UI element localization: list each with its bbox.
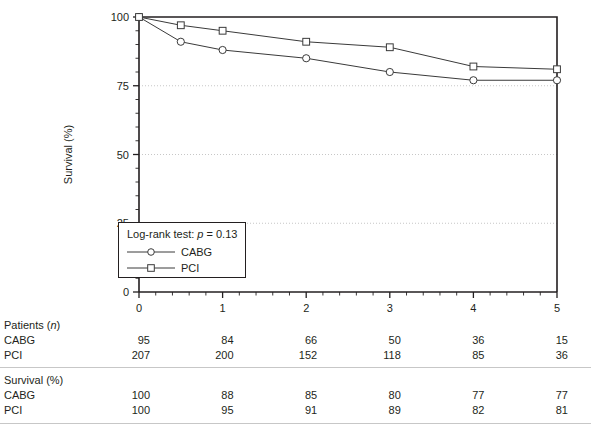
table-divider-bottom (0, 423, 591, 424)
row-label-cabg: CABG (4, 388, 35, 403)
patients-heading-suffix: ) (57, 319, 61, 331)
data-point-square-pci (303, 38, 310, 45)
data-point-square-pci (219, 27, 226, 34)
data-point-square-pci (177, 22, 184, 29)
x-tick-label: 3 (387, 302, 393, 314)
series-line-cabg (139, 17, 557, 80)
circle-open-icon (127, 246, 175, 258)
cell: 77 (528, 388, 568, 403)
patients-table: Patients (n) CABG 95 84 66 50 36 15 PCI … (0, 318, 591, 363)
data-point-circle-cabg (470, 77, 477, 84)
y-tick-label: 50 (117, 149, 129, 161)
table-row: CABG 95 84 66 50 36 15 (0, 333, 591, 348)
cell: 207 (110, 348, 150, 363)
data-point-circle-cabg (303, 55, 310, 62)
x-tick-label: 4 (470, 302, 476, 314)
y-axis-title: Survival (%) (62, 125, 74, 184)
data-series (135, 13, 560, 83)
data-tables: Patients (n) CABG 95 84 66 50 36 15 PCI … (0, 318, 591, 424)
cell: 88 (194, 388, 234, 403)
legend-entry-cabg: CABG (127, 245, 212, 259)
cell: 95 (110, 333, 150, 348)
data-point-square-pci (470, 63, 477, 70)
table-row: CABG 100 88 85 80 77 77 (0, 388, 591, 403)
cell: 100 (110, 403, 150, 418)
cell: 200 (194, 348, 234, 363)
data-point-square-pci (136, 14, 143, 21)
data-point-circle-cabg (386, 68, 393, 75)
table-row: PCI 207 200 152 118 85 36 (0, 348, 591, 363)
y-tick-label: 100 (111, 11, 129, 23)
x-tick-label: 0 (136, 302, 142, 314)
x-tick-label: 1 (220, 302, 226, 314)
y-tick-label: 75 (117, 80, 129, 92)
row-label-pci: PCI (4, 403, 22, 418)
chart-canvas: 1007550250 012345 Survival (%) Years pos… (0, 0, 591, 320)
cell: 15 (528, 333, 568, 348)
cell: 85 (444, 348, 484, 363)
cell: 85 (277, 388, 317, 403)
table-row: PCI 100 95 91 89 82 81 (0, 403, 591, 418)
cell: 152 (277, 348, 317, 363)
survival-table-heading: Survival (%) (0, 373, 591, 388)
cell: 50 (361, 333, 401, 348)
y-tick-label: 0 (123, 286, 129, 298)
row-label-pci: PCI (4, 348, 22, 363)
cell: 89 (361, 403, 401, 418)
cell: 80 (361, 388, 401, 403)
table-divider (0, 367, 591, 368)
legend-label-cabg: CABG (181, 246, 212, 258)
chart-legend: Log-rank test: p = 0.13 CABG (118, 222, 246, 278)
cell: 100 (110, 388, 150, 403)
cell: 91 (277, 403, 317, 418)
legend-entry-pci: PCI (127, 261, 199, 275)
cell: 118 (361, 348, 401, 363)
square-open-icon (127, 262, 175, 274)
log-rank-test-annotation: Log-rank test: p = 0.13 (127, 228, 237, 240)
data-point-circle-cabg (177, 38, 184, 45)
patients-heading-prefix: Patients ( (4, 319, 50, 331)
patients-table-heading: Patients (n) (0, 318, 591, 333)
survival-table: Survival (%) CABG 100 88 85 80 77 77 PCI… (0, 373, 591, 418)
cell: 82 (444, 403, 484, 418)
x-axis-tick-labels: 012345 (136, 302, 560, 314)
row-label-cabg: CABG (4, 333, 35, 348)
data-point-square-pci (554, 66, 561, 73)
cell: 95 (194, 403, 234, 418)
survival-curve-chart: 1007550250 012345 Survival (%) Years pos… (0, 0, 591, 320)
legend-label-pci: PCI (181, 262, 199, 274)
gridlines (139, 86, 557, 224)
cell: 84 (194, 333, 234, 348)
x-tick-label: 5 (554, 302, 560, 314)
x-tick-label: 2 (303, 302, 309, 314)
log-rank-prefix: Log-rank test: (127, 228, 197, 240)
data-point-square-pci (386, 44, 393, 51)
data-point-circle-cabg (219, 46, 226, 53)
cell: 66 (277, 333, 317, 348)
cell: 36 (444, 333, 484, 348)
cell: 36 (528, 348, 568, 363)
cell: 77 (444, 388, 484, 403)
series-line-pci (139, 17, 557, 69)
p-value-number: = 0.13 (203, 228, 237, 240)
data-point-circle-cabg (553, 77, 560, 84)
cell: 81 (528, 403, 568, 418)
